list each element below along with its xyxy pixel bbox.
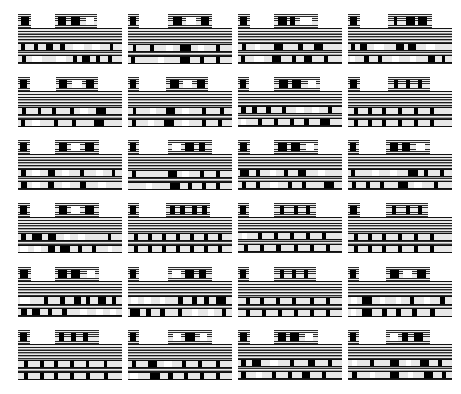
band-marker [108,234,111,240]
band-marker [302,372,310,378]
tower-marker [416,143,425,151]
band-marker [134,246,138,252]
panel-marker-band-lower [18,120,122,126]
band-marker [380,182,384,188]
tower-marker [20,143,27,151]
panel-center-tower [386,140,430,154]
tower-marker [59,333,64,341]
band-marker [182,171,189,177]
band-marker [74,297,81,304]
thumbnail-grid [0,0,461,394]
band-marker [146,183,152,189]
panel-marker-band-upper [348,44,452,50]
panel-center-tower [55,140,99,154]
band-marker [56,56,66,62]
band-marker [306,233,310,239]
band-marker [146,309,151,316]
band-marker [351,170,355,176]
pattern-panel [128,330,232,380]
tower-marker [414,333,423,341]
band-marker [216,373,220,379]
band-marker [254,56,264,62]
panel-center-tower [274,140,318,154]
band-marker [86,361,89,367]
band-marker [202,108,206,114]
band-marker [370,360,374,366]
band-marker [352,372,357,378]
band-marker [282,107,286,113]
panel-left-tower [18,330,30,344]
panel-center-tower [274,330,318,344]
band-marker [408,44,416,50]
band-marker [351,44,355,50]
tower-marker [390,270,399,278]
panel-marker-band-lower [348,56,452,62]
band-marker [298,170,306,176]
panel-marker-band-lower [18,246,122,252]
band-marker [380,297,385,304]
band-marker [73,56,77,62]
panel-marker-band-lower [348,309,452,316]
band-marker [78,234,85,240]
tower-marker [294,206,298,214]
tower-marker [172,143,181,151]
band-marker [382,246,386,252]
band-marker [70,361,74,367]
tower-marker [290,17,295,25]
band-marker [132,120,136,126]
tower-marker [185,270,194,278]
panel-center-tower [55,267,99,281]
tower-marker [172,270,181,278]
band-marker [328,107,332,113]
panel-left-tower [128,77,139,91]
tower-marker [71,206,80,214]
band-marker [430,108,434,114]
band-marker [398,120,402,126]
band-marker [290,233,294,239]
band-marker [396,44,404,50]
tower-marker [306,143,314,151]
band-marker [368,120,372,126]
panel-left-tower [238,267,249,281]
band-marker [80,170,84,176]
band-marker [374,44,384,50]
panel-body [238,281,342,317]
band-marker [218,246,222,252]
band-marker [216,361,220,367]
band-marker [132,171,136,177]
tower-marker [58,270,67,278]
panel-body [238,91,342,127]
tower-marker [202,206,207,214]
panel-marker-band-upper [348,170,452,176]
band-marker [320,119,330,125]
band-marker [256,182,260,188]
tower-marker [130,17,136,25]
band-marker [54,373,58,379]
band-marker [366,182,370,188]
panel-marker-band-lower [18,373,122,379]
panel-marker-band-lower [348,372,452,378]
band-marker [290,360,294,366]
tower-marker [403,270,412,278]
band-marker [244,245,248,251]
band-marker [222,309,226,316]
band-marker [38,108,41,114]
panel-left-tower [348,140,359,154]
tower-marker [402,333,408,341]
panel-body [348,91,452,127]
band-marker [318,170,325,176]
pattern-panel [348,14,452,64]
band-marker [324,182,334,188]
band-marker [378,56,382,62]
tower-marker [71,17,80,25]
tower-marker [406,206,410,214]
band-marker [21,234,26,240]
panel-body [18,344,122,380]
band-marker [370,372,375,378]
tower-marker [59,143,67,151]
panel-marker-band-upper [348,108,452,114]
tower-marker [185,143,194,151]
band-marker [198,361,202,367]
panel-marker-band-lower [128,120,232,126]
tower-marker [394,17,397,25]
